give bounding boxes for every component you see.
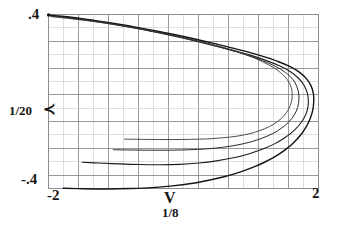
x-axis-sub-label: 1/8	[162, 206, 179, 219]
y-axis-max-label: .4	[28, 7, 39, 22]
x-axis-name-label: V	[164, 190, 176, 206]
chart-figure: .4 -.4 1/20 ≺ -2 2 V 1/8	[0, 0, 340, 237]
y-axis-min-label: -.4	[21, 172, 37, 187]
y-axis-marker-icon: ≺	[43, 102, 56, 117]
x-axis-min-label: -2	[47, 188, 60, 203]
y-axis-name-label: 1/20	[9, 104, 32, 117]
curve-start-marker	[47, 13, 50, 16]
x-axis-max-label: 2	[312, 186, 320, 201]
